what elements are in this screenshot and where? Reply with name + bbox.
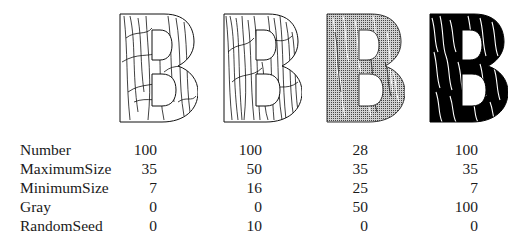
cell: 10 <box>222 216 262 235</box>
table-row-number: Number 100 100 28 100 <box>0 140 529 159</box>
letter-b-sample-4 <box>428 12 508 124</box>
cell: 100 <box>117 140 157 159</box>
cell: 0 <box>438 216 478 235</box>
cell: 0 <box>328 216 368 235</box>
table-row-randomseed: RandomSeed 0 10 0 0 <box>0 216 529 235</box>
row-label: RandomSeed <box>20 216 103 235</box>
row-label: Number <box>20 140 71 159</box>
letter-b-sample-3 <box>325 12 405 124</box>
cell: 0 <box>222 197 262 216</box>
cell: 100 <box>438 140 478 159</box>
row-label: MinimumSize <box>20 178 109 197</box>
cell: 25 <box>328 178 368 197</box>
letter-b-sample-2 <box>222 12 302 124</box>
cell: 7 <box>438 178 478 197</box>
cell: 50 <box>222 159 262 178</box>
letter-samples <box>0 0 529 130</box>
cell: 35 <box>438 159 478 178</box>
row-label: MaximumSize <box>20 159 111 178</box>
cell: 35 <box>328 159 368 178</box>
cell: 7 <box>117 178 157 197</box>
cell: 0 <box>117 197 157 216</box>
cell: 50 <box>328 197 368 216</box>
cell: 100 <box>222 140 262 159</box>
table-row-maximumsize: MaximumSize 35 50 35 35 <box>0 159 529 178</box>
cell: 16 <box>222 178 262 197</box>
row-label: Gray <box>20 197 51 216</box>
table-row-gray: Gray 0 0 50 100 <box>0 197 529 216</box>
letter-b-sample-1 <box>118 12 198 124</box>
cell: 35 <box>117 159 157 178</box>
cell: 0 <box>117 216 157 235</box>
cell: 28 <box>328 140 368 159</box>
table-row-minimumsize: MinimumSize 7 16 25 7 <box>0 178 529 197</box>
cell: 100 <box>438 197 478 216</box>
